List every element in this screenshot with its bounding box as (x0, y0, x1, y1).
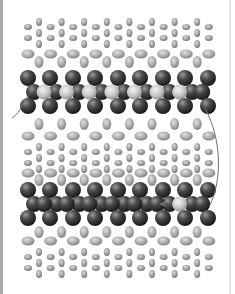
dark-atom (36, 196, 52, 212)
ion (35, 226, 44, 238)
solvent-molecule (126, 259, 132, 267)
solvent-molecule (194, 270, 200, 278)
dark-atom (155, 210, 171, 226)
ion (135, 237, 148, 246)
solvent-molecule (126, 143, 132, 151)
solvent-molecule (137, 265, 145, 271)
ion (170, 174, 179, 186)
solvent-molecule (160, 35, 168, 41)
intercalated-atom (150, 85, 165, 100)
solvent-molecule (172, 259, 178, 267)
ion (80, 174, 89, 186)
ion (180, 50, 193, 59)
dark-atom (110, 70, 126, 86)
ion (57, 118, 66, 130)
intercalated-atom (82, 85, 97, 100)
solvent-molecule (126, 18, 132, 26)
solvent-molecule (182, 265, 190, 271)
solvent-molecule (172, 40, 178, 48)
solvent-molecule (92, 24, 100, 30)
dark-atom (155, 70, 171, 86)
ion (135, 132, 148, 141)
ion (35, 56, 44, 68)
solvent-molecule (24, 35, 32, 41)
solvent-molecule (47, 35, 55, 41)
dark-atom (177, 210, 193, 226)
solvent-molecule (114, 24, 122, 30)
solvent-molecule (59, 40, 65, 48)
ion (44, 50, 57, 59)
ion (170, 118, 179, 130)
dark-atom (65, 182, 81, 198)
solvent-molecule (194, 154, 200, 162)
solvent-molecule (194, 143, 200, 151)
solvent-molecule (194, 29, 200, 37)
solvent-molecule (149, 29, 155, 37)
solvent-molecule (172, 154, 178, 162)
solvent-molecule (114, 265, 122, 271)
dark-atom (200, 210, 216, 226)
solvent-molecule (194, 248, 200, 256)
solvent-molecule (69, 35, 77, 41)
ion (148, 56, 157, 68)
solvent-molecule (149, 165, 155, 173)
ion (193, 174, 202, 186)
ion (67, 237, 80, 246)
layered-structure-diagram (0, 0, 235, 294)
solvent-molecule (59, 143, 65, 151)
ion (80, 56, 89, 68)
solvent-molecule (126, 29, 132, 37)
solvent-molecule (59, 248, 65, 256)
dark-atom (42, 210, 58, 226)
solvent-molecule (205, 265, 213, 271)
ion (148, 118, 157, 130)
ion (202, 132, 215, 141)
solvent-molecule (36, 248, 42, 256)
dark-atom (110, 182, 126, 198)
solvent-molecule (172, 18, 178, 26)
solvent-molecule (104, 154, 110, 162)
intercalated-atom (104, 85, 119, 100)
ion (44, 132, 57, 141)
ion (35, 118, 44, 130)
solvent-molecule (126, 270, 132, 278)
solvent-molecule (92, 35, 100, 41)
solvent-molecule (182, 254, 190, 260)
ion (157, 237, 170, 246)
solvent-molecule (194, 40, 200, 48)
ion (125, 226, 134, 238)
solvent-molecule (47, 265, 55, 271)
solvent-molecule (104, 143, 110, 151)
dark-atom (42, 70, 58, 86)
ion (67, 132, 80, 141)
solvent-molecule (59, 259, 65, 267)
ion (57, 174, 66, 186)
solvent-molecule (172, 29, 178, 37)
intercalated-atom (172, 85, 187, 100)
solvent-molecule (92, 160, 100, 166)
ion (80, 118, 89, 130)
dark-atom (110, 210, 126, 226)
solvent-molecule (104, 248, 110, 256)
ion (112, 132, 125, 141)
solvent-molecule (205, 254, 213, 260)
solvent-molecule (59, 165, 65, 173)
ion (22, 50, 35, 59)
dark-atom (132, 182, 148, 198)
ion (89, 237, 102, 246)
ion (67, 50, 80, 59)
ion (112, 237, 125, 246)
solvent-molecule (205, 149, 213, 155)
solvent-molecule (194, 259, 200, 267)
solvent-molecule (36, 40, 42, 48)
dark-atom (87, 98, 103, 114)
ion (193, 226, 202, 238)
solvent-molecule (36, 259, 42, 267)
solvent-molecule (160, 160, 168, 166)
ion (135, 169, 148, 178)
solvent-molecule (59, 270, 65, 278)
dark-atom (20, 70, 36, 86)
solvent-molecule (104, 29, 110, 37)
dark-atom (87, 210, 103, 226)
solvent-molecule (126, 165, 132, 173)
